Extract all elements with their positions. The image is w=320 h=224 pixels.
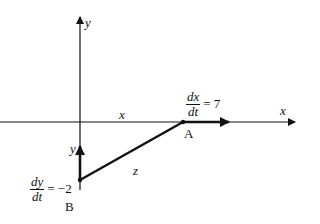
dy-numerator: dy <box>30 175 44 190</box>
dx-dt-annotation: dx dt = 7 <box>186 90 220 118</box>
dx-value: = 7 <box>203 96 220 112</box>
dy-value: = −2 <box>47 181 71 197</box>
segment-z-label: z <box>133 164 138 177</box>
point-b-dot <box>78 178 82 182</box>
hypotenuse-z <box>80 122 183 180</box>
x-axis-label: x <box>280 104 286 117</box>
point-a-dot <box>181 120 185 124</box>
dy-denominator: dt <box>32 190 42 204</box>
dx-numerator: dx <box>186 90 200 105</box>
dx-denominator: dt <box>188 105 198 119</box>
segment-x-label: x <box>119 108 125 121</box>
segment-y-label: y <box>70 142 76 155</box>
point-a-label: A <box>184 127 193 140</box>
y-axis-label: y <box>85 16 91 29</box>
dy-dt-annotation: dy dt = −2 <box>30 175 72 203</box>
